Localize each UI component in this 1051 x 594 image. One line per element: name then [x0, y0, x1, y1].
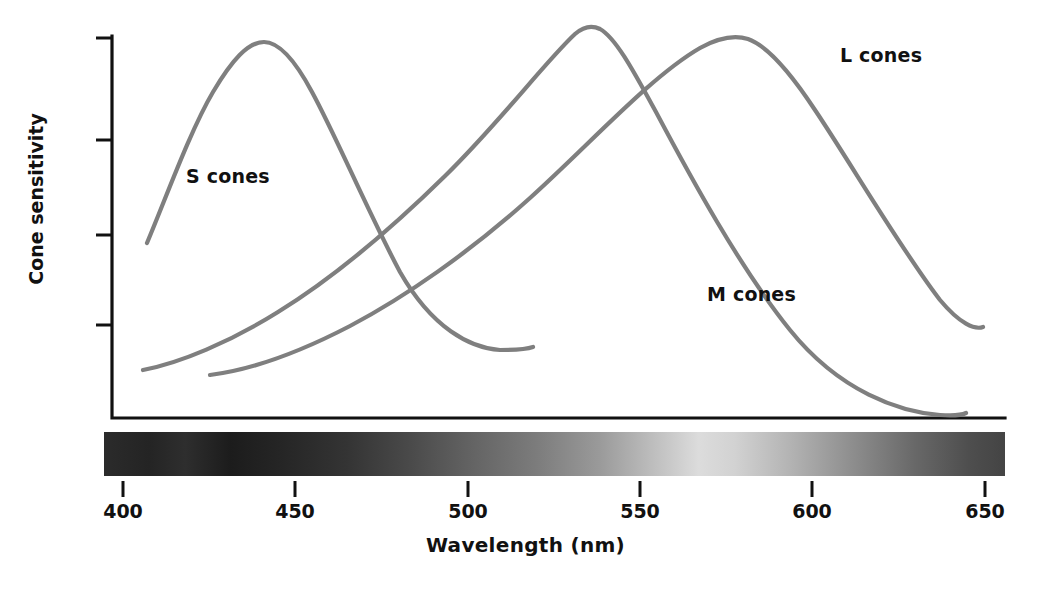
annotation-m-cones: M cones	[707, 283, 796, 305]
x-tick-label-550: 550	[605, 500, 675, 522]
chart-axes	[112, 36, 1005, 418]
x-tick-label-500: 500	[433, 500, 503, 522]
x-tick-label-650: 650	[950, 500, 1020, 522]
cone-sensitivity-chart: S cones M cones L cones Cone sensitivity…	[0, 0, 1051, 594]
annotation-s-cones: S cones	[186, 165, 270, 187]
x-tick-label-400: 400	[88, 500, 158, 522]
x-tick-label-600: 600	[777, 500, 847, 522]
curve-m-cones	[143, 27, 966, 415]
x-axis-title: Wavelength (nm)	[0, 533, 1051, 557]
x-tick-label-450: 450	[260, 500, 330, 522]
annotation-l-cones: L cones	[840, 44, 922, 66]
curve-l-cones	[210, 37, 983, 375]
curve-s-cones	[147, 42, 533, 350]
visible-spectrum-bar	[104, 432, 1005, 476]
y-axis-title: Cone sensitivity	[25, 104, 47, 294]
